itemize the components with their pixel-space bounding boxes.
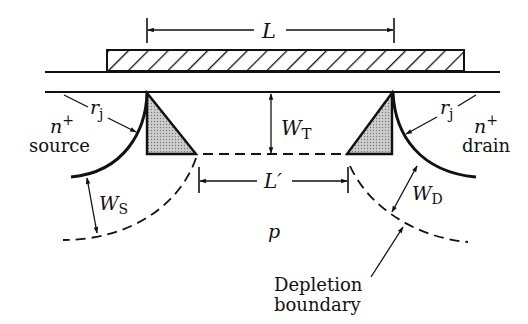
- source-depletion-boundary: [63, 158, 196, 240]
- rj-right-leader: [458, 95, 476, 106]
- source-doping-label: n+: [50, 112, 74, 137]
- ws-label: WS: [99, 192, 128, 217]
- drain-label: drain: [462, 135, 511, 156]
- mosfet-diagram: L WT L′ rj rj n+ source n+ drain: [0, 0, 528, 324]
- gate-length-label: L: [261, 19, 276, 43]
- rj-right-label: rj: [440, 96, 453, 122]
- drain-depletion-boundary: [350, 166, 468, 242]
- effective-length-dimension: L′: [199, 167, 348, 193]
- substrate-label: p: [268, 220, 280, 242]
- depletion-callout-arrow: [371, 227, 403, 277]
- gate-electrode: [107, 50, 464, 71]
- depletion-label-line1: Depletion: [274, 274, 363, 295]
- drain-doping-label: n+: [474, 112, 498, 137]
- source-label: source: [29, 135, 90, 156]
- wt-label: WT: [281, 116, 312, 143]
- effective-length-label: L′: [263, 169, 282, 193]
- rj-left-leader: [64, 95, 88, 107]
- drain-shared-charge-triangle: [347, 93, 392, 154]
- wd-label: WD: [412, 182, 443, 207]
- rj-left-arrow: [108, 118, 136, 132]
- rj-right-arrow: [406, 117, 437, 134]
- ws-arrow: [87, 178, 97, 233]
- gate-length-dimension: L: [147, 18, 394, 43]
- source-shared-charge-triangle: [147, 93, 196, 154]
- depletion-label-line2: boundary: [274, 294, 361, 315]
- rj-left-label: rj: [90, 96, 103, 122]
